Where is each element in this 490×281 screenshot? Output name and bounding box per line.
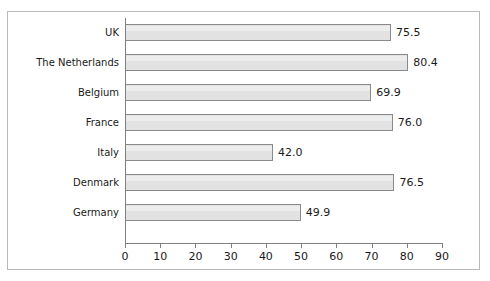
x-axis-tick <box>195 244 196 248</box>
bar-highlight <box>126 26 390 31</box>
x-axis-tick <box>336 244 337 248</box>
bar-highlight <box>126 176 393 181</box>
value-label: 75.5 <box>396 24 421 41</box>
bar-highlight <box>126 86 370 91</box>
bar <box>125 204 301 221</box>
x-axis-tick-label: 70 <box>365 250 379 263</box>
bar <box>125 24 391 41</box>
bar <box>125 114 393 131</box>
x-axis-tick-label: 0 <box>122 250 129 263</box>
x-axis-tick <box>125 244 126 248</box>
x-axis-tick-label: 10 <box>153 250 167 263</box>
category-label: Belgium <box>78 84 119 101</box>
x-axis-tick-label: 90 <box>435 250 449 263</box>
x-axis-tick <box>160 244 161 248</box>
category-label: UK <box>105 24 119 41</box>
bar-row: Germany49.9 <box>125 198 442 228</box>
x-axis-tick <box>301 244 302 248</box>
bar-highlight <box>126 206 300 211</box>
value-label: 69.9 <box>376 84 401 101</box>
x-axis-tick <box>266 244 267 248</box>
x-axis-tick <box>442 244 443 248</box>
bar-highlight <box>126 56 407 61</box>
category-label: Denmark <box>73 174 119 191</box>
x-axis-tick-label: 60 <box>329 250 343 263</box>
x-axis-tick-label: 50 <box>294 250 308 263</box>
y-axis-line <box>125 18 126 244</box>
chart-frame: UK75.5The Netherlands80.4Belgium69.9Fran… <box>7 11 480 270</box>
x-axis-tick <box>372 244 373 248</box>
value-label: 49.9 <box>306 204 331 221</box>
x-axis-tick <box>407 244 408 248</box>
value-label: 42.0 <box>278 144 303 161</box>
bar-row: The Netherlands80.4 <box>125 48 442 78</box>
bar-row: Italy42.0 <box>125 138 442 168</box>
x-axis-line <box>125 243 443 244</box>
x-axis-tick-label: 30 <box>224 250 238 263</box>
bar-row: UK75.5 <box>125 18 442 48</box>
bar-highlight <box>126 116 392 121</box>
category-label: France <box>86 114 119 131</box>
bar-row: Denmark76.5 <box>125 168 442 198</box>
bar-highlight <box>126 146 272 151</box>
value-label: 76.0 <box>398 114 423 131</box>
bar <box>125 54 408 71</box>
x-axis-tick-label: 40 <box>259 250 273 263</box>
x-axis-tick-label: 20 <box>188 250 202 263</box>
bar <box>125 84 371 101</box>
plot-area: UK75.5The Netherlands80.4Belgium69.9Fran… <box>125 18 442 243</box>
bar <box>125 174 394 191</box>
x-axis-tick <box>231 244 232 248</box>
bar-row: Belgium69.9 <box>125 78 442 108</box>
bar-row: France76.0 <box>125 108 442 138</box>
category-label: Italy <box>97 144 119 161</box>
x-axis-tick-label: 80 <box>400 250 414 263</box>
category-label: Germany <box>73 204 119 221</box>
category-label: The Netherlands <box>36 54 119 71</box>
value-label: 80.4 <box>413 54 438 71</box>
bar <box>125 144 273 161</box>
value-label: 76.5 <box>399 174 424 191</box>
